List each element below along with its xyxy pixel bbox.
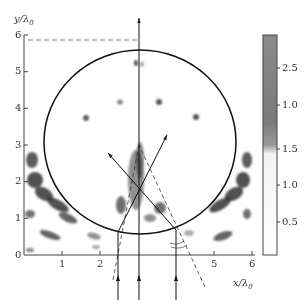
x-axis-label-main: x/λ <box>233 277 248 288</box>
figure: y/λ0 0 1 2 3 4 5 6 1 2 5 6 x/λ0 2.5 1.0 … <box>0 0 306 306</box>
y-tick-6: 6 <box>15 30 21 40</box>
x-axis-label-sub: 0 <box>248 283 252 291</box>
x-tick-1: 1 <box>59 259 65 269</box>
colorbar-tick-0: 2.5 <box>282 63 298 73</box>
y-tick-2: 2 <box>15 176 21 186</box>
x-tick-6: 6 <box>249 259 255 269</box>
dashed-lines <box>113 145 205 287</box>
y-tick-0: 0 <box>15 250 21 260</box>
y-axis-label: y/λ0 <box>14 14 34 27</box>
ray-arrowheads <box>116 275 178 281</box>
x-axis-label: x/λ0 <box>233 278 253 291</box>
y-axis-label-sub: 0 <box>29 19 33 27</box>
y-tick-1: 1 <box>15 213 21 223</box>
colorbar-tick-2: 1.5 <box>282 144 298 154</box>
plot-canvas <box>0 0 306 306</box>
incident-rays <box>118 18 176 300</box>
y-tick-4: 4 <box>15 103 21 113</box>
colorbar <box>263 35 280 255</box>
caption-fragment <box>0 0 306 4</box>
x-tick-2: 2 <box>97 259 103 269</box>
colorbar-tick-1: 1.0 <box>282 100 298 110</box>
y-tick-3: 3 <box>15 140 21 150</box>
colorbar-tick-4: 0.5 <box>282 217 298 227</box>
y-axis-label-main: y/λ <box>14 13 29 24</box>
x-tick-5: 5 <box>211 259 217 269</box>
colorbar-tick-3: 1.0 <box>282 180 298 190</box>
y-tick-5: 5 <box>15 66 21 76</box>
